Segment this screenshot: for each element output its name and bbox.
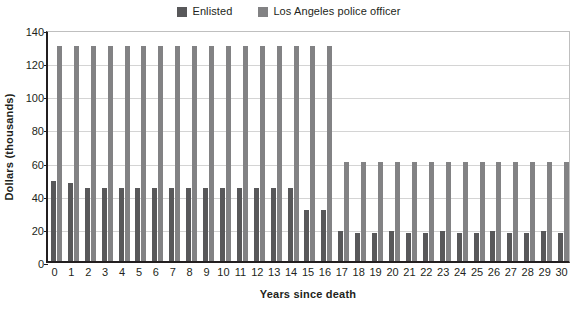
x-tick-label: 27 (505, 266, 517, 278)
x-tick-label: 1 (68, 266, 74, 278)
bar-enlisted[interactable] (237, 188, 242, 261)
bar-lapd[interactable] (141, 46, 146, 261)
x-tick-label: 4 (119, 266, 125, 278)
x-tick-label: 21 (403, 266, 415, 278)
x-tick-label: 28 (522, 266, 534, 278)
legend-item-lapd[interactable]: Los Angeles police officer (258, 6, 400, 17)
bar-lapd[interactable] (108, 46, 113, 261)
bar-lapd[interactable] (378, 162, 383, 261)
x-tick-label: 22 (420, 266, 432, 278)
bar-lapd[interactable] (496, 162, 501, 261)
bar-lapd[interactable] (513, 162, 518, 261)
bar-enlisted[interactable] (541, 231, 546, 261)
y-axis-title: Dollars (thousands) (1, 30, 17, 264)
bar-series-container (48, 32, 569, 261)
bar-lapd[interactable] (243, 46, 248, 261)
legend-item-enlisted[interactable]: Enlisted (177, 6, 232, 17)
x-tick-label: 13 (268, 266, 280, 278)
bar-lapd[interactable] (294, 46, 299, 261)
bar-lapd[interactable] (344, 162, 349, 261)
bar-enlisted[interactable] (355, 233, 360, 261)
bar-enlisted[interactable] (186, 188, 191, 261)
bar-lapd[interactable] (125, 46, 130, 261)
x-tick-label: 10 (217, 266, 229, 278)
bar-enlisted[interactable] (406, 233, 411, 261)
bar-lapd[interactable] (192, 46, 197, 261)
bar-lapd[interactable] (361, 162, 366, 261)
x-tick-label: 2 (85, 266, 91, 278)
x-tick-label: 3 (102, 266, 108, 278)
bar-lapd[interactable] (209, 46, 214, 261)
bar-lapd[interactable] (226, 46, 231, 261)
y-tick-label: 20 (32, 225, 44, 237)
bar-lapd[interactable] (310, 46, 315, 261)
bar-group (99, 32, 116, 261)
bar-lapd[interactable] (480, 162, 485, 261)
bar-enlisted[interactable] (152, 188, 157, 261)
bar-enlisted[interactable] (102, 188, 107, 261)
bar-lapd[interactable] (260, 46, 265, 261)
bar-enlisted[interactable] (507, 233, 512, 261)
bar-group (318, 32, 335, 261)
bar-enlisted[interactable] (135, 188, 140, 261)
bar-group (251, 32, 268, 261)
bar-group (65, 32, 82, 261)
bar-lapd[interactable] (395, 162, 400, 261)
bar-lapd[interactable] (564, 162, 569, 261)
bar-lapd[interactable] (429, 162, 434, 261)
bar-lapd[interactable] (446, 162, 451, 261)
x-tick-label: 17 (336, 266, 348, 278)
bar-enlisted[interactable] (51, 181, 56, 261)
bar-enlisted[interactable] (423, 233, 428, 261)
x-tick-label: 30 (555, 266, 567, 278)
bar-lapd[interactable] (158, 46, 163, 261)
bar-group (352, 32, 369, 261)
bar-group (183, 32, 200, 261)
bar-enlisted[interactable] (457, 233, 462, 261)
bar-enlisted[interactable] (321, 210, 326, 261)
bar-lapd[interactable] (277, 46, 282, 261)
bar-group (420, 32, 437, 261)
bar-lapd[interactable] (327, 46, 332, 261)
bar-enlisted[interactable] (119, 188, 124, 261)
bar-lapd[interactable] (175, 46, 180, 261)
bar-enlisted[interactable] (169, 188, 174, 261)
x-tick-label: 0 (51, 266, 57, 278)
bar-enlisted[interactable] (254, 188, 259, 261)
bar-enlisted[interactable] (203, 188, 208, 261)
bar-enlisted[interactable] (558, 233, 563, 261)
bar-group (217, 32, 234, 261)
x-tick-label: 25 (471, 266, 483, 278)
bar-lapd[interactable] (547, 162, 552, 261)
x-tick-label: 12 (251, 266, 263, 278)
x-tick-label: 14 (285, 266, 297, 278)
bar-enlisted[interactable] (68, 183, 73, 261)
bar-enlisted[interactable] (271, 188, 276, 261)
y-tick-label: 40 (32, 192, 44, 204)
bar-lapd[interactable] (91, 46, 96, 261)
bar-group (555, 32, 572, 261)
bar-enlisted[interactable] (389, 231, 394, 261)
bar-enlisted[interactable] (524, 233, 529, 261)
bar-lapd[interactable] (74, 46, 79, 261)
x-tick-label: 8 (187, 266, 193, 278)
x-tick-label: 6 (153, 266, 159, 278)
bar-lapd[interactable] (463, 162, 468, 261)
bar-enlisted[interactable] (338, 231, 343, 261)
bar-lapd[interactable] (57, 46, 62, 261)
bar-enlisted[interactable] (85, 188, 90, 261)
bar-enlisted[interactable] (490, 231, 495, 261)
bar-group (538, 32, 555, 261)
bar-group (386, 32, 403, 261)
bar-enlisted[interactable] (220, 188, 225, 261)
bar-group (285, 32, 302, 261)
bar-enlisted[interactable] (440, 231, 445, 261)
bar-enlisted[interactable] (288, 188, 293, 261)
x-tick-label: 24 (454, 266, 466, 278)
bar-lapd[interactable] (412, 162, 417, 261)
bar-enlisted[interactable] (474, 233, 479, 261)
bar-enlisted[interactable] (372, 233, 377, 261)
bar-enlisted[interactable] (304, 210, 309, 261)
bar-lapd[interactable] (530, 162, 535, 261)
bar-group (369, 32, 386, 261)
